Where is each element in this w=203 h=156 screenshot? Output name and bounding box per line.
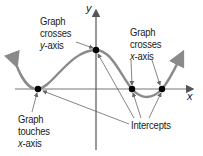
leader-crosses-y xyxy=(76,42,93,48)
touch-x-intercept-point xyxy=(35,86,41,92)
leader-crosses-x-2 xyxy=(152,60,160,85)
leader-touches-x xyxy=(32,93,37,112)
touches-x-axis-label: Graph touches x-axis xyxy=(18,113,50,149)
leader-intercept-x1 xyxy=(133,93,141,118)
intercepts-label: Intercepts xyxy=(131,119,171,131)
crosses-y-axis-label: Graph crosses y-axis xyxy=(40,15,71,51)
x-axis-label: x xyxy=(187,90,193,102)
cross-x-intercept-point-2 xyxy=(159,86,165,92)
leader-crosses-x-1 xyxy=(131,60,132,85)
y-axis-label: y xyxy=(86,2,92,14)
intercepts-diagram: y x Graph crosses y-axis Graph crosses x… xyxy=(0,0,203,156)
cross-x-intercept-point-1 xyxy=(129,86,135,92)
leader-intercept-left xyxy=(43,91,129,124)
y-intercept-point xyxy=(93,47,99,53)
crosses-x-axis-label: Graph crosses x-axis xyxy=(130,26,161,62)
